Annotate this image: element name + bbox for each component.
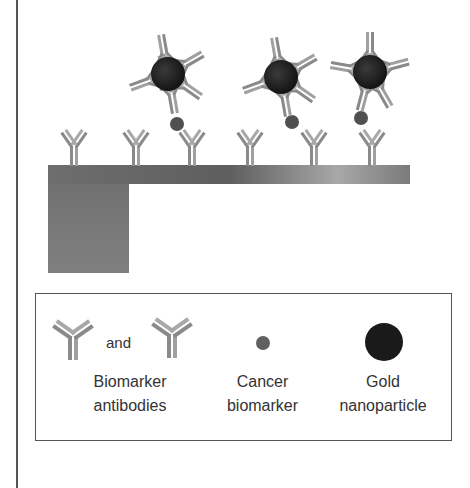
and-label: and: [106, 334, 131, 351]
biomarker-2: [285, 115, 299, 129]
cantilever-base: [48, 184, 129, 273]
legend-label-line1: Biomarker: [70, 370, 190, 394]
legend-cancer-biomarker: Cancer biomarker: [210, 370, 315, 418]
antibody-icon-1: [52, 319, 94, 360]
legend-label-line2: biomarker: [210, 394, 315, 418]
cantilever-beam: [48, 165, 410, 184]
legend-label-line2: antibodies: [70, 394, 190, 418]
gold-nanoparticle-conjugate-2: [239, 35, 323, 119]
biomarker-3: [354, 111, 368, 125]
legend-gold-nanoparticle: Gold nanoparticle: [328, 370, 438, 418]
gold-nanoparticle-conjugate-1: [126, 32, 210, 116]
gold-nanoparticle-conjugate-3: [328, 32, 412, 114]
legend-label-line1: Gold: [328, 370, 438, 394]
legend-icons: [0, 300, 470, 370]
legend-label-line2: nanoparticle: [328, 394, 438, 418]
legend-biomarker-antibodies: Biomarker antibodies: [70, 370, 190, 418]
legend-label-line1: Cancer: [210, 370, 315, 394]
antibody-icon-2: [151, 317, 193, 358]
surface-antibodies: [60, 129, 385, 166]
gold-nanoparticle-icon: [365, 323, 403, 361]
biomarker-1: [170, 117, 184, 131]
biomarker-icon: [256, 336, 270, 350]
sensor-diagram: [0, 0, 470, 290]
